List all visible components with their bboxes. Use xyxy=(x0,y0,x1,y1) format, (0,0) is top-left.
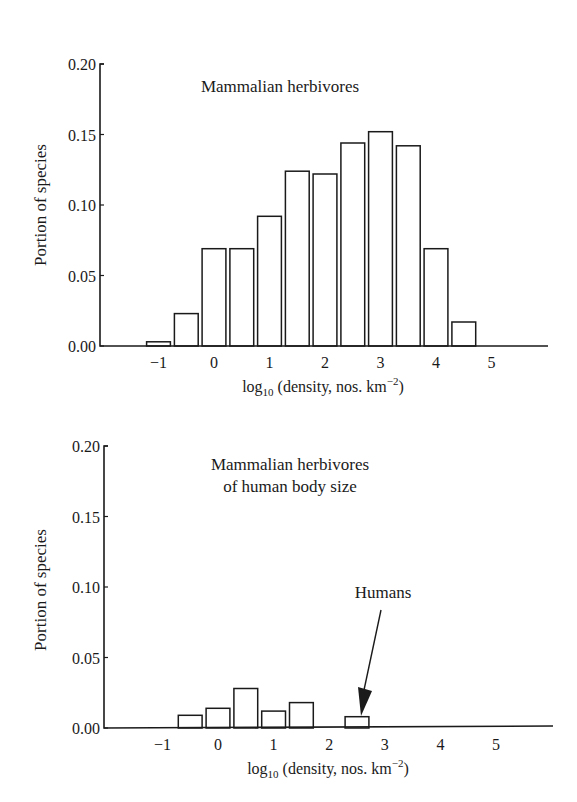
histogram-bar xyxy=(424,249,448,346)
x-tick-label: 3 xyxy=(377,354,385,371)
x-tick-label: 2 xyxy=(321,354,329,371)
top-bars xyxy=(147,132,476,346)
histogram-bar xyxy=(230,249,254,346)
histogram-bar xyxy=(202,249,226,346)
y-tick-label: 0.15 xyxy=(68,127,96,144)
x-tick-label: 4 xyxy=(432,354,440,371)
y-tick-label: 0.10 xyxy=(72,579,100,596)
top-x-ticks: −1012345 xyxy=(150,354,496,371)
x-tick-label: 0 xyxy=(214,736,222,753)
histogram-bar xyxy=(290,703,314,728)
histogram-bar xyxy=(285,171,309,346)
y-tick-label: 0.20 xyxy=(68,56,96,73)
humans-annotation-label: Humans xyxy=(355,583,412,602)
x-tick-label: 5 xyxy=(488,354,496,371)
histogram-bar xyxy=(452,322,476,346)
top-chart-title: Mammalian herbivores xyxy=(201,77,359,96)
y-tick-label: 0.05 xyxy=(68,268,96,285)
histogram-bar xyxy=(178,715,202,728)
y-tick-label: 0.15 xyxy=(72,509,100,526)
histogram-bar xyxy=(258,216,282,346)
bottom-x-axis-label: log10 (density, nos. km−2) xyxy=(247,757,409,780)
x-tick-label: 1 xyxy=(266,354,274,371)
x-tick-label: −1 xyxy=(154,736,171,753)
humans-arrow-icon xyxy=(358,610,381,716)
top-y-ticks: 0.000.050.100.150.20 xyxy=(68,56,104,355)
top-x-axis-label: log10 (density, nos. km−2) xyxy=(242,375,404,398)
bottom-y-ticks: 0.000.050.100.150.20 xyxy=(72,438,108,737)
histogram-bar xyxy=(234,689,258,729)
histogram-bar xyxy=(174,314,198,346)
figure: Mammalian herbivores Portion of species … xyxy=(0,0,577,802)
x-tick-label: 4 xyxy=(436,736,444,753)
x-tick-label: 5 xyxy=(492,736,500,753)
top-y-axis-label: Portion of species xyxy=(31,144,50,266)
y-tick-label: 0.05 xyxy=(72,650,100,667)
y-tick-label: 0.00 xyxy=(72,720,100,737)
histogram-bar xyxy=(369,132,393,346)
x-tick-label: −1 xyxy=(150,354,167,371)
x-tick-label: 1 xyxy=(270,736,278,753)
top-chart: Mammalian herbivores Portion of species … xyxy=(31,56,548,398)
histogram-bar xyxy=(313,174,337,346)
bottom-chart-title-line2: of human body size xyxy=(223,477,357,496)
x-tick-label: 3 xyxy=(381,736,389,753)
y-tick-label: 0.20 xyxy=(72,438,100,455)
bottom-x-ticks: −1012345 xyxy=(154,736,500,753)
y-tick-label: 0.00 xyxy=(68,338,96,355)
y-tick-label: 0.10 xyxy=(68,197,96,214)
bottom-chart-title-line1: Mammalian herbivores xyxy=(211,455,369,474)
bottom-y-axis-label: Portion of species xyxy=(31,529,50,651)
histogram-bar xyxy=(396,146,420,346)
histogram-bar xyxy=(206,708,230,728)
histogram-bar xyxy=(341,143,365,346)
bottom-chart: Mammalian herbivores of human body size … xyxy=(31,438,553,780)
x-tick-label: 2 xyxy=(325,736,333,753)
histogram-bar xyxy=(262,711,286,728)
x-tick-label: 0 xyxy=(210,354,218,371)
bottom-bars xyxy=(178,689,369,729)
